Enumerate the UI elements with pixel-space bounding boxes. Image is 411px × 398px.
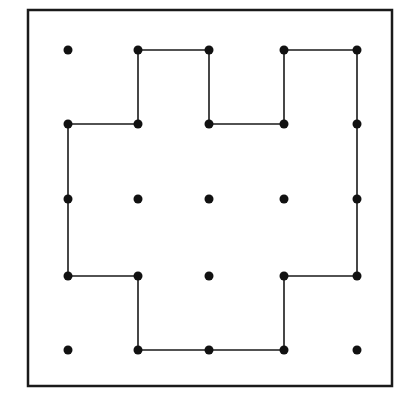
grid-dot [353,272,362,281]
grid-dot [64,195,73,204]
grid-dot [64,46,73,55]
grid-dot [134,346,143,355]
grid-dot [64,120,73,129]
grid-dot [280,346,289,355]
grid-dot [280,120,289,129]
grid-dot [134,195,143,204]
grid-dot [134,46,143,55]
grid-dot [205,346,214,355]
grid-dot [205,46,214,55]
grid-dot [64,346,73,355]
grid-dot [134,272,143,281]
grid-dot [353,46,362,55]
grid-dot [205,272,214,281]
grid-dot [205,120,214,129]
dot-grid [64,46,362,355]
grid-dot [205,195,214,204]
grid-dot [134,120,143,129]
geoboard-diagram [0,0,411,398]
grid-dot [280,272,289,281]
grid-dot [64,272,73,281]
grid-dot [353,346,362,355]
grid-dot [280,46,289,55]
grid-dot [353,120,362,129]
grid-dot [280,195,289,204]
grid-dot [353,195,362,204]
